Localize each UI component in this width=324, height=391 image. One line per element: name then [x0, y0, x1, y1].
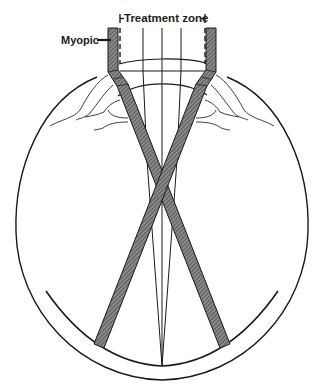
diagram-canvas	[0, 0, 324, 391]
treatment-zone-label: Treatment zone	[124, 13, 208, 25]
myopic-label: Myopic	[61, 35, 99, 46]
eye-ray-diagram: Treatment zone Myopic	[0, 0, 324, 391]
